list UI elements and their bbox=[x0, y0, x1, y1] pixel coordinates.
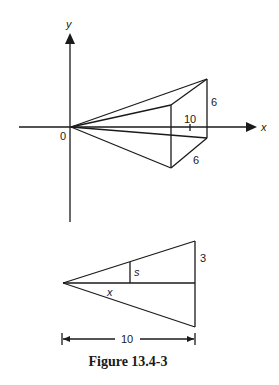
distance-label: x bbox=[106, 286, 113, 298]
pyramid-diagram: y x 0 10 6 6 s x 3 10 Figure 13.4-3 bbox=[0, 0, 279, 385]
length-label: 10 bbox=[121, 333, 133, 345]
depth-label: 6 bbox=[193, 154, 199, 166]
origin-label: 0 bbox=[60, 130, 66, 142]
half-height-label: 3 bbox=[200, 252, 206, 264]
dimension-left-arrow-icon bbox=[63, 336, 70, 342]
y-axis-label: y bbox=[65, 18, 73, 30]
x-axis-label: x bbox=[260, 121, 267, 133]
dimension-right-arrow-icon bbox=[187, 336, 194, 342]
bottom-diagram bbox=[62, 241, 195, 345]
top-diagram bbox=[19, 40, 250, 222]
y-axis-arrow-icon bbox=[65, 33, 75, 44]
tick-label-10: 10 bbox=[184, 113, 196, 125]
height-label: 6 bbox=[211, 96, 217, 108]
cross-section-label: s bbox=[134, 266, 140, 278]
x-axis-arrow-icon bbox=[246, 122, 257, 132]
figure-caption: Figure 13.4-3 bbox=[88, 354, 167, 369]
